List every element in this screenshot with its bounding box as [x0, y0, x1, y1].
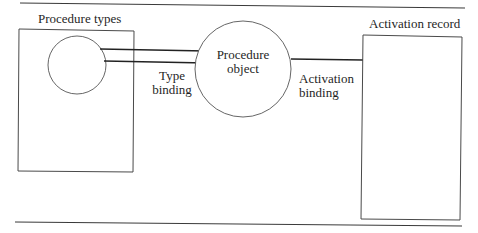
type-binding-line-lower: [104, 61, 206, 63]
procedure-types-box: [18, 29, 134, 172]
activation-binding-label-line2: binding: [299, 86, 354, 100]
type-binding-label: Type binding: [144, 69, 200, 97]
activation-record-box: [361, 35, 462, 220]
procedure-types-label: Procedure types: [38, 12, 121, 26]
activation-binding-label-line1: Activation: [299, 72, 354, 86]
activation-binding-line: [291, 59, 363, 60]
procedure-type-node: [48, 36, 106, 94]
type-binding-line-upper: [100, 49, 206, 51]
activation-record-label: Activation record: [369, 17, 460, 31]
diagram-canvas: [0, 0, 478, 233]
activation-binding-label: Activation binding: [299, 72, 354, 100]
type-binding-label-line1: Type: [144, 69, 200, 83]
top-rule: [20, 3, 465, 8]
procedure-object-label-line2: object: [203, 62, 283, 76]
procedure-object-label-line1: Procedure: [203, 48, 283, 62]
type-binding-label-line2: binding: [144, 83, 200, 97]
bottom-rule: [15, 222, 462, 226]
procedure-object-label: Procedure object: [203, 48, 283, 76]
procedure-binding-diagram: Procedure types Activation record Proced…: [0, 0, 478, 233]
